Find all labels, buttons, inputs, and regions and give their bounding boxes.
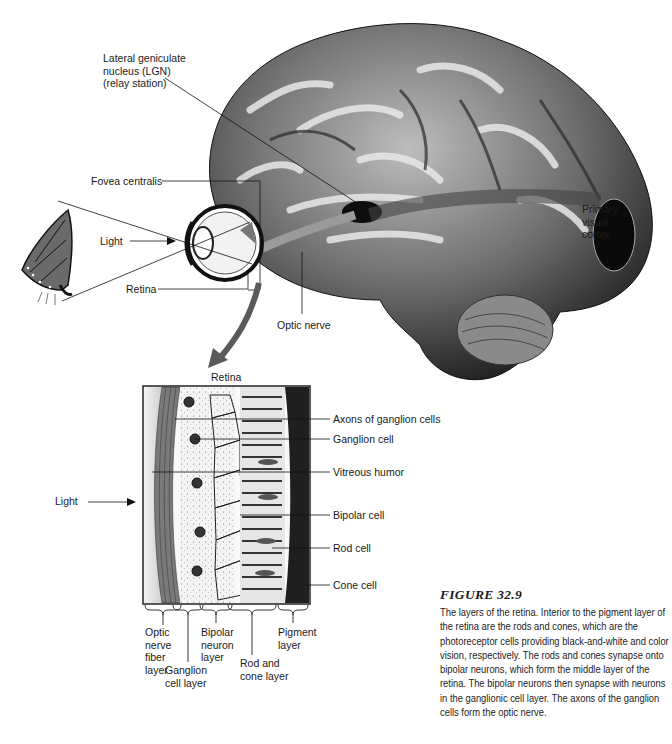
caption-body: The layers of the retina. Interior to th… — [440, 606, 670, 720]
label-retina-eye: Retina — [126, 283, 156, 296]
label-lgn: Lateral geniculate nucleus (LGN) (relay … — [103, 52, 186, 90]
label-rod-cell: Rod cell — [333, 542, 371, 555]
retina-section-title: Retina — [211, 371, 241, 384]
label-pigment-layer: Pigment layer — [278, 626, 317, 651]
retina-figure: Lateral geniculate nucleus (LGN) (relay … — [0, 0, 672, 744]
retina-light-arrow-icon — [127, 498, 136, 506]
label-rod-and-cone-layer: Rod and cone layer — [240, 657, 288, 682]
label-primary-visual-cortex: Primary visual cortex — [582, 203, 618, 241]
caption-title: FIGURE 32.9 — [440, 587, 672, 603]
label-axons-of-ganglion-cells: Axons of ganglion cells — [333, 413, 440, 426]
label-cone-cell: Cone cell — [333, 579, 377, 592]
zoom-arrow-line — [220, 283, 259, 358]
figure-caption: FIGURE 32.9 The layers of the retina. In… — [440, 587, 672, 720]
label-vitreous-humor: Vitreous humor — [333, 466, 404, 479]
butterfly-illustration — [22, 210, 72, 305]
brain-illustration — [210, 24, 653, 380]
label-ganglion-cell: Ganglion cell — [333, 433, 394, 446]
label-ganglion-cell-layer: Ganglion cell layer — [165, 664, 207, 689]
label-light: Light — [100, 235, 123, 248]
label-fovea-centralis: Fovea centralis — [91, 175, 162, 188]
label-bipolar-cell: Bipolar cell — [333, 509, 384, 522]
label-retina-light: Light — [55, 495, 78, 508]
eye-illustration — [186, 206, 262, 280]
label-bipolar-neuron-layer: Bipolar neuron layer — [201, 626, 234, 664]
label-optic-nerve: Optic nerve — [277, 319, 331, 332]
